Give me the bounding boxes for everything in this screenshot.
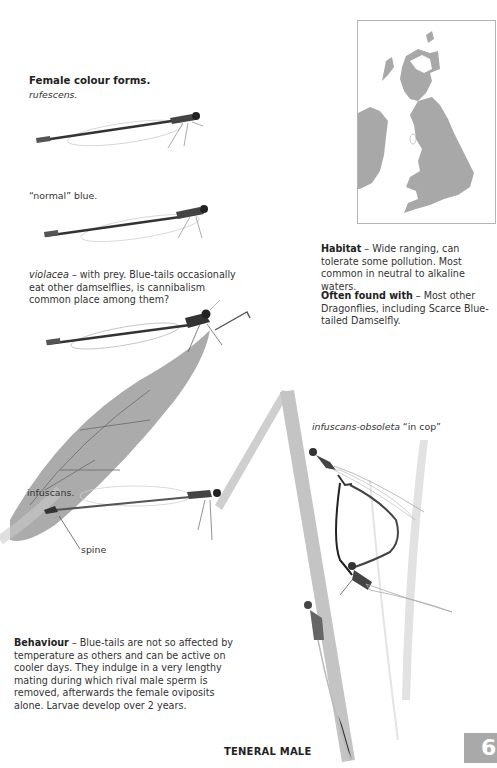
behaviour-paragraph: Behaviour – Blue-tails are not so affect… — [14, 637, 244, 713]
behaviour-label: Behaviour — [14, 637, 69, 648]
page-number-tab: 6 — [464, 733, 497, 763]
page-number: 6 — [481, 735, 496, 760]
teneral-male-label: TENERAL MALE — [224, 746, 311, 757]
